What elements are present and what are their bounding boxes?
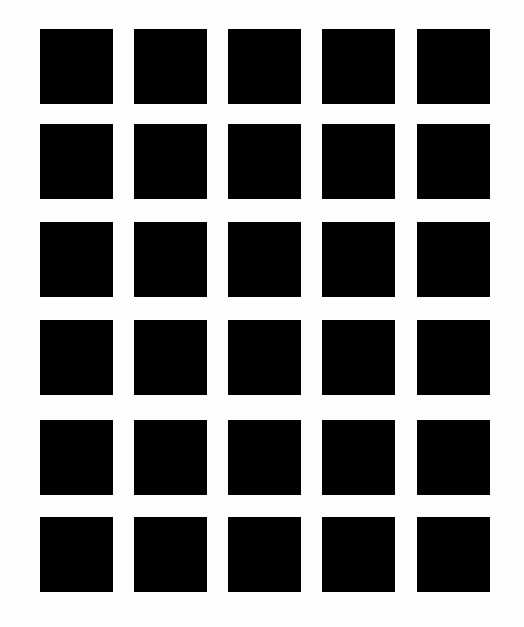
- grid-square: [417, 517, 490, 592]
- grid-square: [134, 420, 207, 495]
- grid-square: [40, 517, 113, 592]
- grid-square: [417, 420, 490, 495]
- grid-square: [134, 320, 207, 395]
- grid-square: [322, 124, 395, 199]
- grid-square: [40, 124, 113, 199]
- grid-square: [134, 222, 207, 297]
- grid-square: [40, 420, 113, 495]
- grid-square: [322, 517, 395, 592]
- grid-square: [228, 29, 301, 104]
- grid-square: [417, 222, 490, 297]
- grid-square: [322, 420, 395, 495]
- grid-square: [134, 517, 207, 592]
- grid-square: [322, 222, 395, 297]
- hermann-grid: [0, 0, 524, 627]
- grid-square: [417, 29, 490, 104]
- grid-square: [417, 320, 490, 395]
- grid-square: [40, 320, 113, 395]
- grid-square: [228, 517, 301, 592]
- grid-square: [322, 29, 395, 104]
- grid-square: [228, 420, 301, 495]
- grid-square: [228, 320, 301, 395]
- grid-square: [417, 124, 490, 199]
- grid-square: [40, 29, 113, 104]
- grid-square: [228, 124, 301, 199]
- grid-square: [228, 222, 301, 297]
- grid-square: [40, 222, 113, 297]
- grid-square: [322, 320, 395, 395]
- grid-square: [134, 124, 207, 199]
- grid-square: [134, 29, 207, 104]
